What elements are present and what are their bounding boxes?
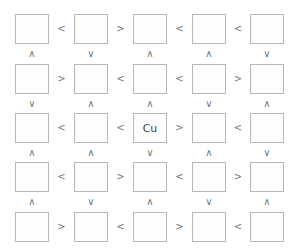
grid-cell-r3-c3[interactable]: Cu xyxy=(133,113,167,143)
less-than-sign: < xyxy=(231,22,245,36)
less-than-sign: < xyxy=(231,220,245,234)
greater-than-down-sign: ∨ xyxy=(260,47,274,61)
less-than-sign: < xyxy=(173,170,187,184)
grid-cell-r1-c5[interactable] xyxy=(250,14,284,44)
less-than-up-sign: ∧ xyxy=(25,146,39,160)
less-than-sign: < xyxy=(55,121,69,135)
grid-cell-r4-c5[interactable] xyxy=(250,162,284,192)
less-than-up-sign: ∧ xyxy=(260,195,274,209)
grid-cell-r4-c2[interactable] xyxy=(74,162,108,192)
greater-than-sign: > xyxy=(231,72,245,86)
greater-than-down-sign: ∨ xyxy=(84,47,98,61)
greater-than-sign: > xyxy=(173,220,187,234)
grid-cell-r5-c1[interactable] xyxy=(15,212,49,242)
grid-cell-r1-c2[interactable] xyxy=(74,14,108,44)
less-than-sign: < xyxy=(114,72,128,86)
less-than-sign: < xyxy=(173,22,187,36)
grid-cell-r4-c1[interactable] xyxy=(15,162,49,192)
less-than-sign: < xyxy=(114,220,128,234)
less-than-up-sign: ∧ xyxy=(143,195,157,209)
greater-than-sign: > xyxy=(173,121,187,135)
grid-cell-r4-c4[interactable] xyxy=(192,162,226,192)
less-than-up-sign: ∧ xyxy=(202,146,216,160)
less-than-sign: < xyxy=(173,72,187,86)
greater-than-down-sign: ∨ xyxy=(84,195,98,209)
grid-cell-r1-c4[interactable] xyxy=(192,14,226,44)
grid-cell-r5-c2[interactable] xyxy=(74,212,108,242)
greater-than-sign: > xyxy=(55,72,69,86)
greater-than-down-sign: ∨ xyxy=(260,146,274,160)
less-than-up-sign: ∧ xyxy=(143,47,157,61)
grid-cell-r3-c5[interactable] xyxy=(250,113,284,143)
grid-cell-r2-c2[interactable] xyxy=(74,64,108,94)
greater-than-down-sign: ∨ xyxy=(143,146,157,160)
grid-cell-r3-c1[interactable] xyxy=(15,113,49,143)
grid-cell-r3-c4[interactable] xyxy=(192,113,226,143)
less-than-up-sign: ∧ xyxy=(84,97,98,111)
less-than-up-sign: ∧ xyxy=(25,195,39,209)
less-than-sign: < xyxy=(114,121,128,135)
less-than-sign: < xyxy=(55,22,69,36)
greater-than-sign: > xyxy=(231,170,245,184)
less-than-up-sign: ∧ xyxy=(202,47,216,61)
less-than-sign: < xyxy=(55,170,69,184)
greater-than-sign: > xyxy=(114,170,128,184)
greater-than-down-sign: ∨ xyxy=(25,97,39,111)
grid-cell-r1-c1[interactable] xyxy=(15,14,49,44)
grid-cell-r2-c3[interactable] xyxy=(133,64,167,94)
greater-than-down-sign: ∨ xyxy=(202,97,216,111)
less-than-up-sign: ∧ xyxy=(143,97,157,111)
grid-cell-r5-c4[interactable] xyxy=(192,212,226,242)
less-than-sign: < xyxy=(231,121,245,135)
less-than-up-sign: ∧ xyxy=(25,47,39,61)
greater-than-sign: > xyxy=(114,22,128,36)
greater-than-down-sign: ∨ xyxy=(202,195,216,209)
grid-cell-r2-c4[interactable] xyxy=(192,64,226,94)
greater-than-sign: > xyxy=(55,220,69,234)
grid-cell-r2-c1[interactable] xyxy=(15,64,49,94)
grid-cell-r2-c5[interactable] xyxy=(250,64,284,94)
grid-cell-r1-c3[interactable] xyxy=(133,14,167,44)
grid-cell-r4-c3[interactable] xyxy=(133,162,167,192)
grid-cell-r5-c3[interactable] xyxy=(133,212,167,242)
less-than-up-sign: ∧ xyxy=(260,97,274,111)
grid-cell-r5-c5[interactable] xyxy=(250,212,284,242)
less-than-up-sign: ∧ xyxy=(84,146,98,160)
grid-cell-r3-c2[interactable] xyxy=(74,113,108,143)
